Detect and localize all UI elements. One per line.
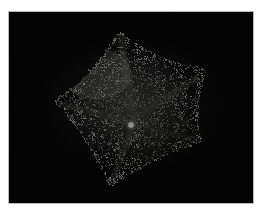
figure-page	[0, 0, 262, 212]
sea-star-illustration	[9, 12, 253, 203]
specimen-container	[9, 12, 253, 203]
madreporite-icon	[127, 121, 136, 130]
photo-dark-field	[9, 12, 253, 203]
